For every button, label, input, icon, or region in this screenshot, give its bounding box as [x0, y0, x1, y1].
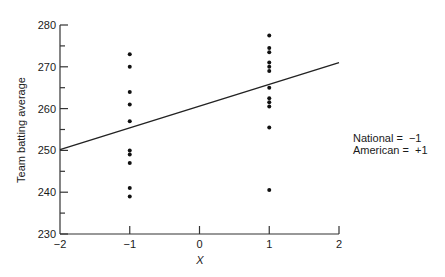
data-point — [267, 188, 271, 192]
data-point — [128, 153, 132, 157]
y-tick-label: 260 — [38, 103, 56, 115]
data-point — [267, 125, 271, 129]
data-point — [267, 33, 271, 37]
data-point — [128, 194, 132, 198]
data-point — [128, 65, 132, 69]
axes — [60, 25, 339, 234]
legend: National = −1 American = +1 — [353, 132, 428, 156]
x-axis-label: X — [195, 254, 204, 266]
data-point — [128, 52, 132, 56]
x-tick-label: −2 — [54, 238, 67, 250]
data-point — [128, 148, 132, 152]
data-point — [267, 105, 271, 109]
data-point — [267, 46, 271, 50]
data-point — [128, 119, 132, 123]
data-point — [128, 186, 132, 190]
data-point — [267, 65, 271, 69]
ticks: 230240250260270280−2−1012 — [38, 19, 342, 250]
y-tick-label: 240 — [38, 186, 56, 198]
legend-national: National = −1 — [353, 132, 428, 144]
data-points — [128, 33, 272, 198]
data-point — [267, 69, 271, 73]
x-tick-label: −1 — [123, 238, 136, 250]
data-point — [128, 102, 132, 106]
data-point — [267, 50, 271, 54]
y-tick-label: 270 — [38, 61, 56, 73]
data-point — [267, 96, 271, 100]
legend-american: American = +1 — [353, 144, 428, 156]
data-point — [267, 61, 271, 65]
x-tick-label: 0 — [196, 238, 202, 250]
y-tick-label: 250 — [38, 144, 56, 156]
y-axis-label: Team batting average — [15, 77, 27, 183]
x-tick-label: 2 — [336, 238, 342, 250]
data-point — [128, 161, 132, 165]
regression-line — [60, 63, 339, 150]
data-point — [267, 100, 271, 104]
y-tick-label: 280 — [38, 19, 56, 31]
data-point — [267, 86, 271, 90]
x-tick-label: 1 — [266, 238, 272, 250]
data-point — [128, 90, 132, 94]
